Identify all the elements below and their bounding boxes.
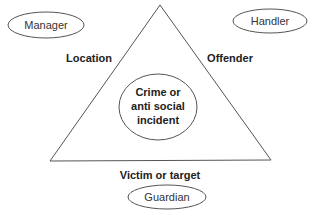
side-label-offender: Offender bbox=[207, 52, 254, 64]
handler-label: Handler bbox=[251, 15, 290, 27]
guardian-label: Guardian bbox=[144, 191, 189, 203]
crime-triangle-diagram: Crime or anti social incident Location O… bbox=[0, 0, 312, 217]
center-label-line-3: incident bbox=[137, 114, 180, 126]
center-label-line-1: Crime or bbox=[135, 86, 181, 98]
side-label-location: Location bbox=[66, 52, 112, 64]
manager-label: Manager bbox=[24, 19, 68, 31]
center-label-line-2: anti social bbox=[131, 100, 185, 112]
side-label-victim: Victim or target bbox=[120, 169, 201, 181]
